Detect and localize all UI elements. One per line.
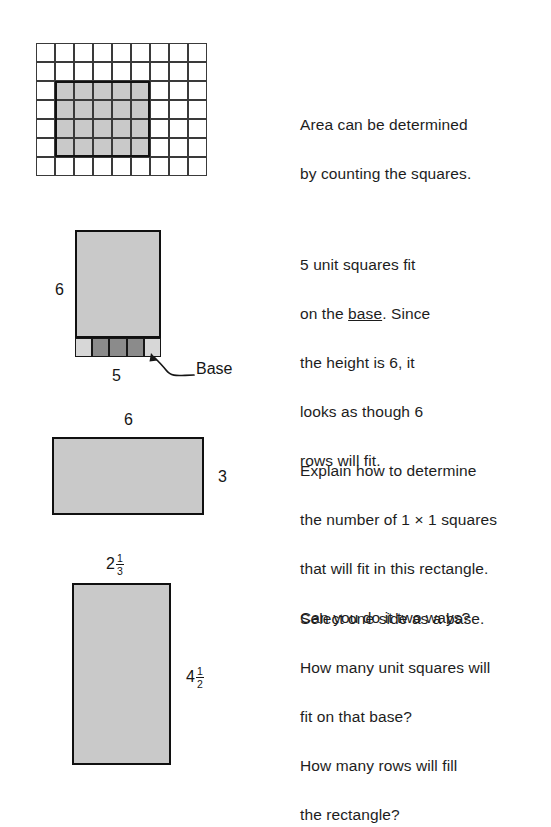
grid-cell: [55, 157, 74, 176]
six-by-three-rectangle: [52, 437, 204, 515]
base-explanation-line-4: looks as though 6: [300, 400, 535, 425]
grid-cell: [169, 157, 188, 176]
grid-cell: [131, 62, 150, 81]
grid-cell: [36, 62, 55, 81]
select-base-line-5: the rectangle?: [300, 803, 540, 827]
grid-cell: [169, 43, 188, 62]
grid-cell: [112, 157, 131, 176]
explain-prompt-line-1: Explain how to determine: [300, 459, 540, 484]
select-base-line-3: fit on that base?: [300, 705, 540, 730]
select-base-line-2: How many unit squares will: [300, 656, 540, 681]
grid-cell: [55, 43, 74, 62]
grid-cell: [169, 62, 188, 81]
grid-cell: [150, 119, 169, 138]
grid-cell: [169, 138, 188, 157]
grid-cell: [112, 62, 131, 81]
select-base-prompt-text: Select one side as a base. How many unit…: [300, 582, 540, 827]
grid-cell-shaded: [55, 138, 74, 157]
grid-cell: [93, 43, 112, 62]
grid-cell: [36, 43, 55, 62]
select-base-line-1: Select one side as a base.: [300, 607, 540, 632]
grid-cell: [188, 119, 207, 138]
grid-cell-shaded: [93, 100, 112, 119]
grid-cell: [150, 43, 169, 62]
grid-cell: [131, 157, 150, 176]
base-explanation-line-2-pre: on the: [300, 305, 348, 322]
grid-cell-shaded: [112, 81, 131, 100]
grid-cell-shaded: [131, 138, 150, 157]
base-keyword-underlined: base: [348, 305, 382, 322]
select-base-line-4: How many rows will fill: [300, 754, 540, 779]
grid-cell: [36, 81, 55, 100]
base-callout-label: Base: [196, 360, 232, 378]
grid-cell-shaded: [55, 100, 74, 119]
grid-cell: [188, 62, 207, 81]
mixed-top-denominator: 3: [116, 566, 124, 577]
base-explanation-line-2-post: . Since: [382, 305, 430, 322]
base-explanation-line-2: on the base. Since: [300, 302, 535, 327]
base-explanation-line-1: 5 unit squares fit: [300, 253, 535, 278]
grid-cell-shaded: [112, 119, 131, 138]
grid-cell: [188, 157, 207, 176]
base-unit-square: [75, 338, 92, 357]
grid-cell: [93, 62, 112, 81]
grid-cell-shaded: [74, 119, 93, 138]
grid-cell: [74, 43, 93, 62]
base-unit-square: [92, 338, 109, 357]
grid-cell: [55, 62, 74, 81]
grid-cell: [131, 43, 150, 62]
grid-cell: [36, 119, 55, 138]
grid-cell: [188, 81, 207, 100]
grid-cell: [112, 43, 131, 62]
area-counting-line-2: by counting the squares.: [300, 162, 530, 187]
grid-cell: [169, 119, 188, 138]
grid-cell-shaded: [131, 100, 150, 119]
grid-cell: [150, 138, 169, 157]
explain-prompt-line-3: that will fit in this rectangle.: [300, 557, 540, 582]
grid-cell-shaded: [55, 119, 74, 138]
area-counting-line-1: Area can be determined: [300, 113, 530, 138]
grid-cell-shaded: [93, 138, 112, 157]
six-by-three-top-label: 6: [124, 412, 133, 428]
grid-cell: [150, 100, 169, 119]
grid-cell-shaded: [93, 119, 112, 138]
area-counting-text: Area can be determined by counting the s…: [300, 88, 530, 211]
counting-grid-figure: [36, 43, 207, 176]
grid-cell-shaded: [131, 81, 150, 100]
explain-prompt-line-2: the number of 1 × 1 squares: [300, 508, 540, 533]
mixed-top-fraction: 1 3: [116, 553, 124, 578]
grid-cell: [93, 157, 112, 176]
grid-cell-shaded: [131, 119, 150, 138]
mixed-right-fraction: 1 2: [196, 666, 204, 691]
grid-cell: [188, 43, 207, 62]
grid-cell: [36, 100, 55, 119]
grid-cell-shaded: [74, 138, 93, 157]
mixed-top-whole: 2: [106, 556, 115, 572]
mixed-top-numerator: 1: [116, 553, 124, 564]
grid-cell: [169, 100, 188, 119]
mixed-number-rectangle: [72, 583, 171, 765]
mixed-rectangle-top-label: 2 1 3: [106, 552, 124, 577]
grid-cell-shaded: [74, 81, 93, 100]
grid-cell: [150, 157, 169, 176]
base-rectangle-base-label: 5: [112, 368, 121, 384]
grid-cell: [169, 81, 188, 100]
base-rectangle-height-label: 6: [55, 282, 64, 298]
mixed-rectangle-right-label: 4 1 2: [186, 665, 204, 690]
grid-cell: [188, 100, 207, 119]
base-rectangle: [75, 230, 161, 338]
grid-cell: [74, 157, 93, 176]
grid-cell: [150, 62, 169, 81]
mixed-right-denominator: 2: [196, 679, 204, 690]
grid-cell: [74, 62, 93, 81]
base-unit-square: [109, 338, 126, 357]
grid-cell-shaded: [74, 100, 93, 119]
grid-cell: [36, 157, 55, 176]
grid-cell: [36, 138, 55, 157]
grid-cell-shaded: [112, 138, 131, 157]
grid-cell-shaded: [55, 81, 74, 100]
grid-cell-shaded: [93, 81, 112, 100]
base-callout-arrow-icon: [130, 352, 196, 382]
grid-cell: [150, 81, 169, 100]
grid-cell-shaded: [112, 100, 131, 119]
